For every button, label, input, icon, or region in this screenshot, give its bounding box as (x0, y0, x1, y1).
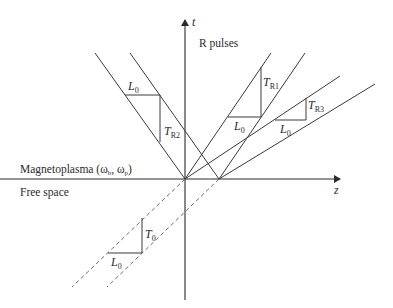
incident-leading-edge (72, 179, 185, 287)
r1-triangle: TR1 L0 (228, 67, 279, 135)
r2-triangle: L0 TR2 (125, 79, 180, 142)
incident-length-label: L0 (110, 255, 122, 271)
free-space-label: Free space (20, 186, 69, 199)
r1-trailing-edge (219, 53, 305, 179)
r1-leading-edge (185, 53, 271, 179)
r3-length-label: L0 (279, 122, 291, 138)
z-axis-label: z (333, 183, 339, 197)
incident-trailing-edge (107, 179, 219, 287)
r3-time-label: TR3 (308, 98, 324, 114)
incident-time-label: T0 (145, 227, 156, 243)
r3-triangle: TR3 L0 (275, 98, 324, 138)
r2-length-label: L0 (127, 79, 139, 95)
magnetoplasma-label: Magnetoplasma (ωb, ωp) (20, 163, 132, 177)
r1-length-label: L0 (233, 119, 245, 135)
r3-leading-edge (185, 76, 340, 179)
r1-time-label: TR1 (263, 75, 279, 91)
r2-time-label: TR2 (164, 124, 180, 140)
space-time-diagram: t z Magnetoplasma (ωb, ωp) Free space R … (0, 0, 393, 308)
r-pulses-label: R pulses (199, 37, 239, 50)
r2-leading-edge (130, 53, 219, 179)
t-axis-label: t (192, 15, 196, 29)
r2-trailing-edge (95, 53, 185, 179)
